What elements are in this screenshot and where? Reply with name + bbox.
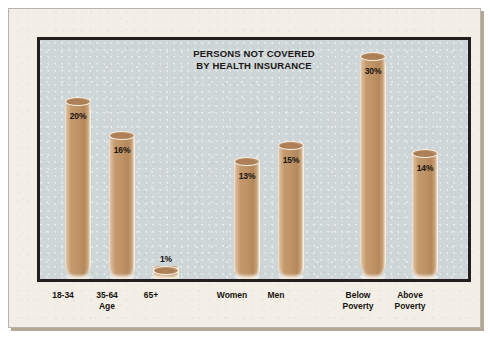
- bar-bottom-ellipse: [360, 273, 386, 280]
- bar-bottom-ellipse: [278, 273, 304, 280]
- chart-page: PERSONS NOT COVERED BY HEALTH INSURANCE …: [0, 0, 490, 340]
- bar-value-label: 16%: [109, 145, 135, 155]
- bar-bottom-ellipse: [109, 273, 135, 280]
- bar-below-poverty[interactable]: 30%: [360, 52, 386, 279]
- tick-label-above-poverty: Above Poverty: [374, 290, 446, 311]
- chart-card: PERSONS NOT COVERED BY HEALTH INSURANCE …: [8, 8, 481, 328]
- bar-above-poverty[interactable]: 14%: [412, 149, 438, 279]
- bar-top-ellipse: [65, 97, 91, 106]
- bar-top-ellipse: [234, 157, 260, 166]
- bar-body: [65, 97, 91, 279]
- bar-65-plus[interactable]: 1%: [153, 266, 179, 279]
- bar-value-label: 20%: [65, 111, 91, 121]
- bar-bottom-ellipse: [234, 273, 260, 280]
- bar-body: [360, 52, 386, 279]
- bar-bottom-ellipse: [153, 273, 179, 280]
- bar-18-34[interactable]: 20%: [65, 97, 91, 279]
- bar-bottom-ellipse: [412, 273, 438, 280]
- bar-value-label: 15%: [278, 155, 304, 165]
- bar-value-label: 1%: [153, 254, 179, 264]
- bar-men[interactable]: 15%: [278, 141, 304, 279]
- plot-area: PERSONS NOT COVERED BY HEALTH INSURANCE …: [37, 37, 471, 282]
- bar-value-label: 13%: [234, 171, 260, 181]
- bar-bottom-ellipse: [65, 273, 91, 280]
- bar-women[interactable]: 13%: [234, 157, 260, 279]
- bar-top-ellipse: [278, 141, 304, 150]
- bar-top-ellipse: [412, 149, 438, 158]
- bar-value-label: 14%: [412, 163, 438, 173]
- tick-label-men: Men: [240, 290, 312, 301]
- axis-label-age: Age: [71, 301, 143, 311]
- chart-title: PERSONS NOT COVERED BY HEALTH INSURANCE: [40, 48, 468, 72]
- bar-35-64[interactable]: 16%: [109, 131, 135, 279]
- tick-label-65-plus: 65+: [115, 290, 187, 301]
- bar-top-ellipse: [109, 131, 135, 140]
